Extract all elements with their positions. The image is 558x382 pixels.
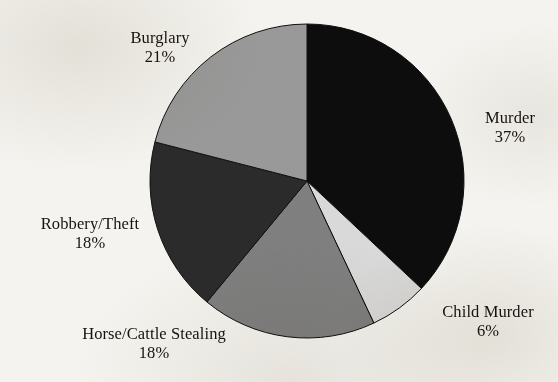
slice-label-child-murder-value: 6% bbox=[418, 321, 558, 340]
pie-slice-group bbox=[150, 24, 464, 338]
slice-label-robbery-theft: Robbery/Theft 18% bbox=[14, 214, 166, 253]
slice-label-murder: Murder 37% bbox=[462, 108, 558, 147]
slice-label-child-murder: Child Murder 6% bbox=[418, 302, 558, 341]
slice-label-horse-cattle-stealing-name: Horse/Cattle Stealing bbox=[56, 324, 252, 343]
slice-label-horse-cattle-stealing: Horse/Cattle Stealing 18% bbox=[56, 324, 252, 363]
slice-label-child-murder-name: Child Murder bbox=[418, 302, 558, 321]
slice-label-burglary: Burglary 21% bbox=[96, 28, 224, 67]
slice-label-robbery-theft-name: Robbery/Theft bbox=[14, 214, 166, 233]
slice-label-burglary-value: 21% bbox=[96, 47, 224, 66]
slice-label-burglary-name: Burglary bbox=[96, 28, 224, 47]
pie-chart: Murder 37% Child Murder 6% Horse/Cattle … bbox=[0, 0, 558, 382]
slice-label-horse-cattle-stealing-value: 18% bbox=[56, 343, 252, 362]
slice-label-murder-name: Murder bbox=[462, 108, 558, 127]
slice-label-murder-value: 37% bbox=[462, 127, 558, 146]
slice-label-robbery-theft-value: 18% bbox=[14, 233, 166, 252]
